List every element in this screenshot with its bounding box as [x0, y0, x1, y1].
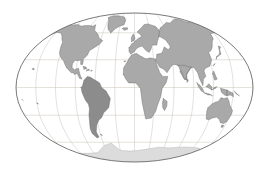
world-map-svg: [0, 0, 271, 178]
world-map-figure: [0, 0, 271, 178]
